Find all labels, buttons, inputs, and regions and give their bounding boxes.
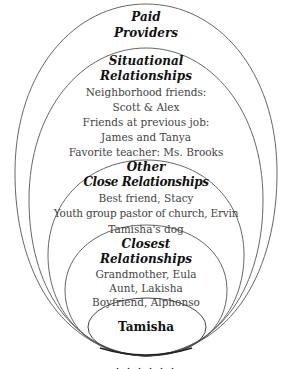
situational-title-2: Relationships	[0, 69, 292, 84]
other-close-item: Tamisha's dog	[0, 222, 292, 237]
closest-title-1: Closest	[0, 237, 292, 252]
situational-item: Favorite teacher: Ms. Brooks	[0, 145, 292, 160]
center-label-tamisha: Tamisha	[0, 320, 292, 335]
caption-cutoff: · · · · · ·	[0, 362, 292, 369]
situational-item: Neighborhood friends:	[0, 85, 292, 100]
other-close-title-2: Close Relationships	[0, 175, 292, 190]
other-close-item: Youth group pastor of church, Ervin	[0, 206, 292, 221]
closest-item: Grandmother, Eula	[0, 267, 292, 282]
closest-item: Aunt, Lakisha	[0, 281, 292, 296]
situational-title-1: Situational	[0, 54, 292, 69]
situational-item: James and Tanya	[0, 130, 292, 145]
bottom-convergence	[100, 348, 192, 355]
paid-providers-title-2: Providers	[0, 26, 292, 41]
paid-providers-title-1: Paid	[0, 10, 292, 25]
situational-item: Friends at previous job:	[0, 115, 292, 130]
other-close-item: Best friend, Stacy	[0, 191, 292, 206]
closest-title-2: Relationships	[0, 252, 292, 267]
situational-item: Scott & Alex	[0, 100, 292, 115]
closest-item: Boyfriend, Alphonso	[0, 295, 292, 310]
other-close-title-1: Other	[0, 160, 292, 175]
